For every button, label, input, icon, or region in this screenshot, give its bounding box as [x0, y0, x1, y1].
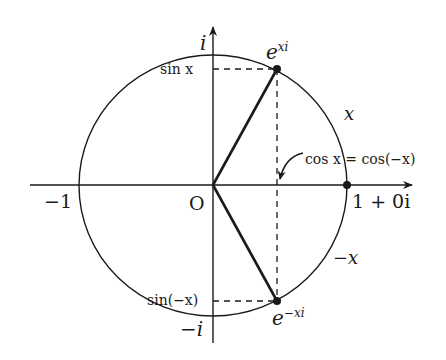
- e-xi-base: e: [266, 40, 278, 64]
- origin-label: O: [189, 192, 205, 214]
- e-xi-exponent: xi: [278, 40, 289, 54]
- e-neg-xi-exponent: −xi: [284, 306, 305, 320]
- sin-x-label: sin x: [160, 61, 193, 77]
- radius-upper: [213, 69, 277, 185]
- unit-circle-diagram: i −i sin x sin(−x) exi e−xi x −x cos x =…: [0, 0, 446, 360]
- neg-one-label: −1: [44, 190, 72, 212]
- point-unit: [343, 181, 351, 189]
- arc-x-label: x: [344, 103, 354, 124]
- cos-annotation-label: cos x = cos(−x): [305, 151, 415, 167]
- sin-neg-x-label: sin(−x): [147, 292, 198, 308]
- cos-annotation-arrow: [280, 153, 303, 179]
- radius-lower: [213, 185, 277, 301]
- arc-neg-x-label: −x: [333, 247, 358, 268]
- e-xi-label: exi: [266, 40, 289, 64]
- imag-axis-label-neg: −i: [180, 317, 203, 341]
- imag-axis-label-pos: i: [200, 31, 206, 55]
- point-e-neg-xi: [273, 297, 281, 305]
- e-neg-xi-label: e−xi: [272, 306, 305, 330]
- e-neg-xi-base: e: [272, 306, 284, 330]
- point-e-xi: [273, 65, 281, 73]
- unit-point-label: 1 + 0i: [352, 190, 410, 212]
